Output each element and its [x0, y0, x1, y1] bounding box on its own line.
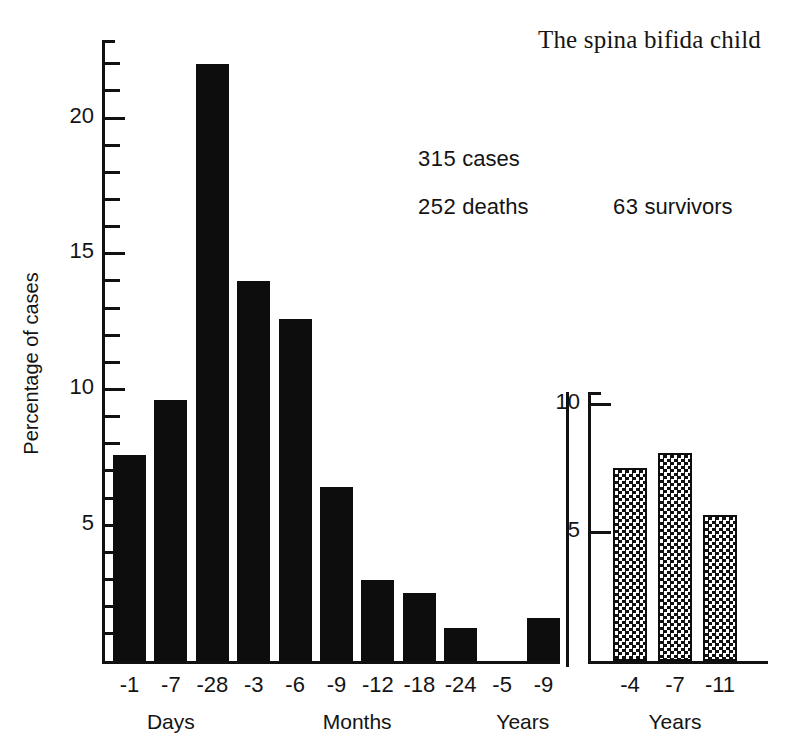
bar: [154, 400, 187, 661]
survivors-plot-area: 510: [588, 392, 768, 664]
y-axis-label: Percentage of cases: [20, 249, 43, 479]
bar: [613, 468, 647, 661]
bar-series-deaths: [105, 42, 560, 661]
y-axis-tick-label: 10: [70, 374, 94, 400]
bar: [113, 455, 146, 661]
survivors-y-axis-tick-label: 5: [568, 517, 580, 543]
y-axis-tick-label: 5: [82, 510, 94, 536]
bar: [703, 515, 737, 661]
y-axis-tick-label: 20: [70, 103, 94, 129]
main-plot-area: 5101520: [102, 40, 560, 664]
bar: [658, 453, 692, 661]
bar: [196, 64, 229, 661]
bar-series-survivors: [591, 394, 768, 661]
figure-spina-bifida-chart: The spina bifida child 315 cases 252 dea…: [0, 0, 785, 754]
bar: [403, 593, 436, 661]
x-axis-group-label: Months: [277, 710, 437, 734]
bar: [444, 628, 477, 661]
bar: [279, 319, 312, 661]
bar: [237, 281, 270, 661]
page-title: The spina bifida child: [538, 26, 761, 54]
x-axis-group-label: Days: [91, 710, 251, 734]
bar: [361, 580, 394, 661]
annotation-survivors: 63 survivors: [613, 194, 733, 220]
annotation-survivors-number: 63: [613, 194, 638, 219]
annotation-survivors-word: survivors: [645, 194, 733, 219]
survivors-x-axis-tick-label: -11: [690, 672, 750, 698]
bar: [527, 618, 560, 661]
survivors-y-axis-tick-label: 10: [556, 389, 580, 415]
x-axis-tick-label: -9: [514, 672, 574, 698]
x-axis-group-label: Years: [443, 710, 603, 734]
y-axis-tick-label: 15: [70, 238, 94, 264]
survivors-x-axis-baseline: [588, 661, 768, 664]
bar: [320, 487, 353, 661]
survivors-group-label: Years: [595, 710, 755, 734]
x-axis-baseline: [102, 661, 560, 664]
